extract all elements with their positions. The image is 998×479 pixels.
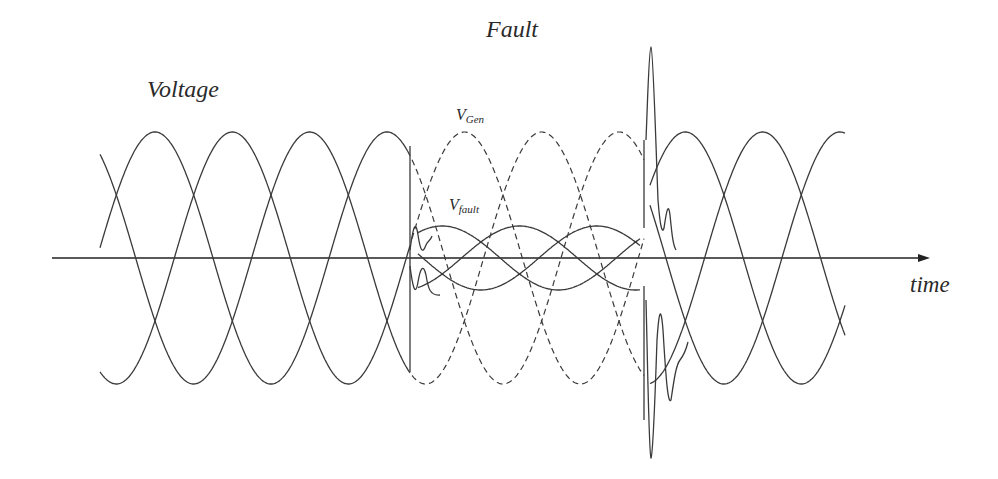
v-gen-subscript: Gen: [466, 113, 484, 125]
v-fault-symbol: V: [449, 196, 459, 213]
fault-label: Fault: [486, 16, 538, 43]
voltage-label: Voltage: [147, 76, 219, 103]
time-axis-label: time: [910, 272, 950, 298]
clearing-spike-positive: [646, 47, 676, 250]
voltage-fault-diagram: [0, 0, 998, 479]
v-gen-label: VGen: [456, 106, 484, 125]
clearing-spike-negative: [646, 300, 688, 458]
axis-arrow-icon: [918, 254, 930, 262]
time-axis: [52, 254, 930, 262]
v-fault-subscript: fault: [459, 203, 479, 215]
fault-transients: [410, 47, 688, 458]
v-fault-label: Vfault: [449, 196, 479, 215]
v-gen-symbol: V: [456, 106, 466, 123]
inception-ringing-upper: [410, 227, 432, 251]
inception-ringing-lower: [410, 266, 440, 295]
